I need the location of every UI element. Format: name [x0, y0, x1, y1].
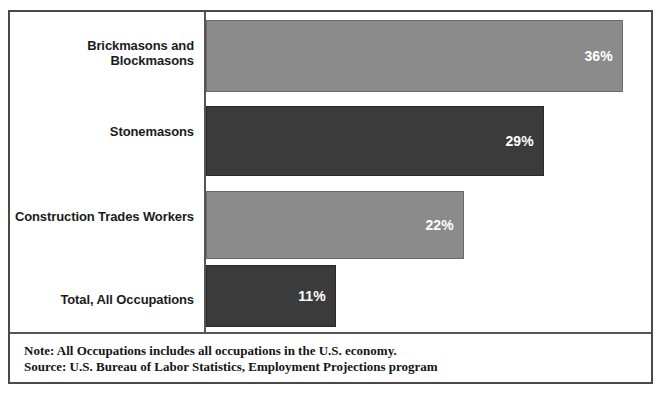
bar-value-label: 29%: [505, 133, 534, 149]
category-label-stonemasons: Stonemasons: [8, 124, 194, 139]
bar-value-label: 36%: [584, 48, 613, 64]
footer-notes: Note: All Occupations includes all occup…: [10, 334, 651, 382]
bar-row: 22%: [206, 191, 651, 259]
bar-stonemasons[interactable]: 29%: [206, 106, 544, 176]
bar-total-all-occupations[interactable]: 11%: [206, 265, 336, 327]
bars-column: 36% 29% 22% 11%: [206, 12, 651, 332]
bar-row: 29%: [206, 106, 651, 176]
bar-value-label: 11%: [298, 288, 326, 304]
category-label-brickmasons-and-blockmasons: Brickmasons and Blockmasons: [8, 38, 194, 68]
category-label-construction-trades-workers: Construction Trades Workers: [4, 209, 194, 224]
footer-note: Note: All Occupations includes all occup…: [24, 343, 639, 359]
bar-row: 11%: [206, 265, 651, 327]
bar-construction-trades-workers[interactable]: 22%: [206, 191, 464, 259]
category-label-column: Brickmasons and Blockmasons Stonemasons …: [10, 12, 206, 332]
footer-source: Source: U.S. Bureau of Labor Statistics,…: [24, 359, 639, 375]
plot-area: Brickmasons and Blockmasons Stonemasons …: [10, 12, 651, 332]
chart-figure: Brickmasons and Blockmasons Stonemasons …: [8, 10, 653, 384]
bar-row: 36%: [206, 20, 651, 92]
bar-value-label: 22%: [425, 217, 454, 233]
category-label-total-all-occupations: Total, All Occupations: [8, 292, 194, 307]
bar-brickmasons-and-blockmasons[interactable]: 36%: [206, 20, 623, 92]
